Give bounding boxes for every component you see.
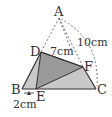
label-d: D bbox=[30, 44, 40, 59]
label-a: A bbox=[53, 4, 64, 19]
measure-df: 7cm bbox=[50, 45, 74, 58]
label-b: B bbox=[11, 82, 21, 97]
label-f: F bbox=[84, 59, 93, 74]
measure-ac: 10cm bbox=[77, 36, 108, 49]
geometry-diagram: A B C D E F 7cm 10cm 2cm bbox=[0, 0, 112, 117]
measure-be: 2cm bbox=[13, 98, 37, 111]
label-e: E bbox=[36, 89, 46, 104]
label-c: C bbox=[97, 82, 107, 97]
